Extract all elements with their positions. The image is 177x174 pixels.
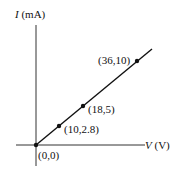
point-10-2.8: [57, 124, 61, 128]
y-axis-unit: (mA): [21, 8, 45, 21]
point-18-5: [81, 104, 85, 108]
point-0-0: [34, 143, 38, 147]
x-axis-label: V (V): [145, 139, 170, 152]
x-axis-var: V: [145, 139, 153, 151]
y-axis-label: I (mA): [14, 8, 46, 21]
iv-chart: (0,0) (10,2.8) (18,5) (36,10) I (mA) V (…: [0, 0, 177, 174]
label-point-2: (18,5): [88, 103, 115, 116]
point-36-10: [135, 59, 139, 63]
label-point-3: (36,10): [98, 54, 130, 67]
label-point-0: (0,0): [38, 149, 59, 162]
x-axis-unit: (V): [154, 139, 170, 152]
label-point-1: (10,2.8): [64, 123, 99, 136]
y-axis-var: I: [14, 8, 20, 20]
